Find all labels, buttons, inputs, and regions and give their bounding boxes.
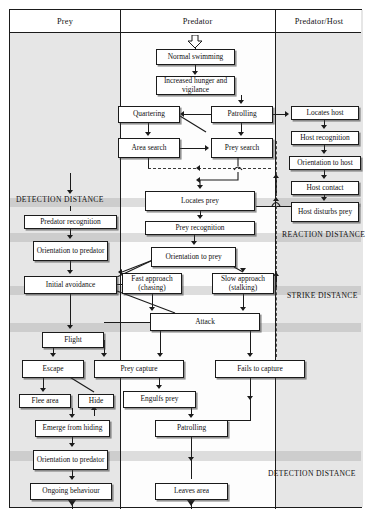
node-locates-prey[interactable]: Locates prey: [145, 191, 255, 211]
arrowhead-area-to-prey-search: [205, 145, 209, 151]
node-area-search[interactable]: Area search: [118, 138, 180, 158]
arrowhead-detection-down: [67, 190, 73, 194]
node-orientation-to-prey[interactable]: Orientation to prey: [151, 247, 236, 267]
edge-attack-to-prey-capture: [160, 331, 161, 355]
node-prey-recognition[interactable]: Prey recognition: [145, 221, 255, 235]
arrowhead-to-emerge: [69, 414, 75, 418]
arrowhead-predator-recognition-to-orientation: [67, 235, 73, 239]
arrowhead-attack-to-fails: [247, 353, 253, 357]
arrowhead-orientation-to-initial-avoidance: [67, 270, 73, 274]
arrowhead-engulfs-to-patrolling: [188, 414, 194, 418]
edge-patrolling-to-quartering: [184, 114, 211, 115]
edge-avoidance-to-flight: [70, 294, 71, 326]
node-initial-avoidance[interactable]: Initial avoidance: [24, 276, 117, 294]
arrowhead-dashed-feedback: [196, 165, 200, 171]
arrowhead-locates-host-to-recognition: [321, 125, 327, 129]
arrowhead-fails-down: [247, 396, 253, 400]
arrowhead-attack-to-prey-capture: [157, 353, 163, 357]
node-orientation-to-predator-2[interactable]: Orientation to predator: [33, 450, 108, 470]
node-flee-area[interactable]: Flee area: [19, 394, 71, 408]
node-escape[interactable]: Escape: [22, 360, 84, 378]
arrowhead-orientation-host-to-contact: [321, 175, 327, 179]
node-prey-capture[interactable]: Prey capture: [94, 360, 184, 378]
edge-fails-to-patrolling: [227, 420, 251, 421]
node-engulfs-prey[interactable]: Engulfs prey: [123, 391, 196, 408]
arrowhead-hunger-to-patrolling: [238, 100, 244, 104]
arrowhead-host-disturbs-up: [273, 197, 279, 201]
zone-label-detection-lower: DETECTION DISTANCE: [268, 469, 356, 478]
zone-label-strike: STRIKE DISTANCE: [287, 291, 358, 300]
node-prey-search[interactable]: Prey search: [211, 138, 273, 158]
node-emerge-from-hiding[interactable]: Emerge from hiding: [35, 420, 110, 437]
column-header-predator-host: Predator/Host: [275, 10, 363, 33]
column-divider-1: [120, 10, 121, 509]
column-background-predator-host: [275, 10, 363, 507]
node-ongoing-behaviour[interactable]: Ongoing behaviour: [30, 483, 112, 500]
arrowhead-prey-search-hop: [196, 177, 200, 183]
arrowhead-to-slow-approach: [240, 268, 246, 272]
arrowhead-boundary-up-reaction: [273, 174, 279, 178]
node-fails-to-capture[interactable]: Fails to capture: [215, 360, 305, 378]
node-orientation-to-host[interactable]: Orientation to host: [289, 156, 361, 170]
dashed-boundary-lower: [276, 282, 277, 357]
column-header-prey: Prey: [10, 10, 120, 33]
arrowhead-prey-recognition-to-orientation: [191, 241, 197, 245]
edge-detection-down: [70, 173, 71, 191]
arrowhead-patrolling-to-quartering: [180, 111, 184, 117]
node-hide[interactable]: Hide: [78, 394, 114, 408]
dashed-feedback-search: [148, 168, 271, 169]
node-host-recognition[interactable]: Host recognition: [291, 131, 359, 145]
arrowhead-slow-approach-to-attack: [240, 307, 246, 311]
arrowhead-patrolling-to-locates-host: [285, 111, 289, 117]
zone-label-detection-upper: DETECTION DISTANCE: [16, 195, 104, 204]
edge-attack-to-fails: [250, 331, 251, 355]
arrowhead-locates-to-prey-recognition: [197, 215, 203, 219]
node-attack[interactable]: Attack: [150, 313, 260, 331]
edge-attack-to-flight-row: [104, 322, 152, 323]
zone-label-reaction: REACTION DISTANCE: [282, 230, 365, 239]
arrowhead-prey-capture-to-engulfs: [156, 385, 162, 389]
column-header-predator: Predator: [120, 10, 275, 33]
edge-area-to-prey-search: [180, 148, 206, 149]
arrowhead-avoidance-to-flight: [67, 325, 73, 329]
node-locates-host[interactable]: Locates host: [291, 106, 359, 120]
arrowhead-escape-to-flee-area: [40, 388, 46, 392]
node-orientation-to-predator[interactable]: Orientation to predator: [33, 241, 108, 261]
arrowhead-flight-to-prey-capture: [101, 353, 107, 357]
node-slow-approach[interactable]: Slow approach (stalking): [212, 273, 274, 294]
arrowhead-normal-to-hunger: [192, 71, 198, 75]
node-patrolling-2[interactable]: Patrolling: [155, 420, 228, 437]
node-fast-approach[interactable]: Fast approach (chasing): [122, 273, 182, 294]
edge-host-disturbs-to-prey: [256, 206, 291, 207]
arrowhead-patrolling2-to-leaves: [188, 457, 194, 461]
node-flight[interactable]: Flight: [42, 332, 104, 348]
arrowhead-fast-approach-to-attack: [149, 307, 155, 311]
diagram-frame: Prey Predator Predator/Host Normal swimm…: [9, 9, 362, 508]
arrowhead-quartering-to-area-search: [145, 132, 151, 136]
dashed-boundary-mid: [276, 206, 277, 274]
dashed-boundary-upper: [276, 141, 277, 201]
node-increased-hunger[interactable]: Increased hunger and vigilance: [156, 76, 235, 95]
node-leaves-area[interactable]: Leaves area: [155, 483, 228, 500]
node-quartering[interactable]: Quartering: [118, 106, 180, 123]
arrowhead-patrolling-to-prey-search: [238, 132, 244, 136]
figure-root: Prey Predator Predator/Host Normal swimm…: [0, 0, 371, 517]
arrowhead-to-locates-prey: [197, 185, 203, 189]
arrowhead-host-contact-to-disturbs: [321, 197, 327, 201]
node-patrolling[interactable]: Patrolling: [211, 106, 273, 123]
node-predator-recognition[interactable]: Predator recognition: [24, 215, 117, 229]
node-normal-swimming[interactable]: Normal swimming: [156, 49, 235, 65]
arrowhead-leaves-terminal: [187, 500, 195, 506]
arrowhead-emerge-to-orientation: [69, 443, 75, 447]
arrowhead-ongoing-terminal: [68, 500, 76, 506]
arrowhead-host-recognition-to-orientation: [321, 150, 327, 154]
arrowhead-orientation2-to-ongoing: [69, 476, 75, 480]
arrowhead-flight-to-escape: [50, 353, 56, 357]
edge-area-search-down: [148, 158, 149, 168]
node-host-contact[interactable]: Host contact: [291, 181, 359, 195]
edge-detection-to-predator-recognition: [70, 206, 71, 211]
node-host-disturbs-prey[interactable]: Host disturbs prey: [291, 202, 359, 222]
